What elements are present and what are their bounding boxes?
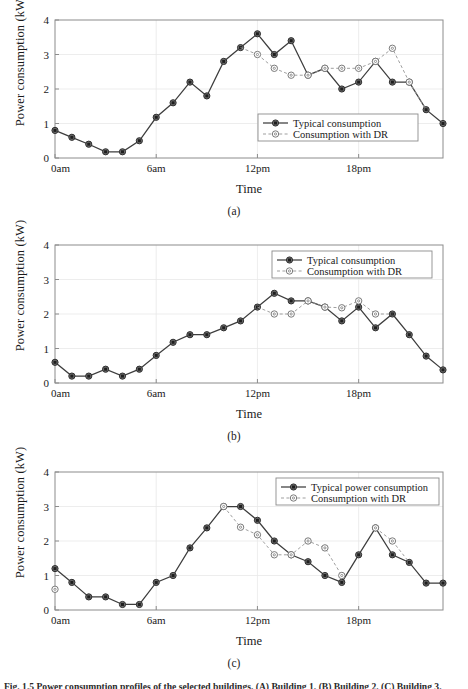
- subplot-caption-b: (b): [0, 430, 468, 442]
- svg-text:2: 2: [44, 308, 50, 320]
- svg-text:12pm: 12pm: [245, 387, 271, 399]
- svg-text:3: 3: [44, 501, 50, 513]
- chart-legend: Typical power consumptionConsumption wit…: [276, 478, 439, 505]
- svg-text:1: 1: [44, 118, 50, 130]
- legend-label-dr: Consumption with DR: [307, 266, 402, 277]
- chart-svg-c: 012340am6am12pm18pmTypical power consump…: [0, 452, 468, 642]
- y-axis-label-a: Power consumption (kW): [13, 0, 28, 151]
- legend-label-typical: Typical consumption: [293, 118, 382, 129]
- svg-text:6am: 6am: [147, 162, 166, 174]
- chart-svg-b: 012340am6am12pm18pmTypical consumptionCo…: [0, 225, 468, 415]
- svg-text:6am: 6am: [147, 387, 166, 399]
- svg-text:2: 2: [44, 535, 50, 547]
- plot-area-a: 012340am6am12pm18pmTypical consumptionCo…: [0, 0, 468, 190]
- svg-text:0: 0: [44, 604, 50, 616]
- svg-text:0am: 0am: [51, 387, 70, 399]
- legend-label-typical: Typical consumption: [307, 255, 396, 266]
- svg-text:1: 1: [44, 343, 50, 355]
- svg-text:18pm: 18pm: [346, 614, 372, 626]
- subplot-caption-a: (a): [0, 205, 468, 217]
- figure-caption: Fig. 1.5 Power consumption profiles of t…: [4, 681, 466, 689]
- y-axis-label-b: Power consumption (kW): [13, 196, 28, 376]
- x-axis-label-b: Time: [55, 407, 443, 422]
- svg-text:12pm: 12pm: [245, 614, 271, 626]
- svg-text:18pm: 18pm: [346, 387, 372, 399]
- svg-text:3: 3: [44, 274, 50, 286]
- chart-panel-a: 012340am6am12pm18pmTypical consumptionCo…: [0, 0, 468, 225]
- svg-text:0am: 0am: [51, 162, 70, 174]
- svg-text:2: 2: [44, 83, 50, 95]
- y-axis-label-c: Power consumption (kW): [13, 423, 28, 603]
- legend-label-typical: Typical power consumption: [311, 482, 429, 493]
- svg-text:0: 0: [44, 377, 50, 389]
- chart-panel-b: 012340am6am12pm18pmTypical consumptionCo…: [0, 225, 468, 450]
- svg-text:0: 0: [44, 152, 50, 164]
- chart-legend: Typical consumptionConsumption with DR: [258, 114, 418, 141]
- svg-text:1: 1: [44, 570, 50, 582]
- legend-label-dr: Consumption with DR: [293, 129, 388, 140]
- svg-text:0am: 0am: [51, 614, 70, 626]
- chart-panel-c: 012340am6am12pm18pmTypical power consump…: [0, 452, 468, 677]
- x-axis-label-c: Time: [55, 634, 443, 649]
- subplot-caption-c: (c): [0, 657, 468, 669]
- x-axis-label-a: Time: [55, 182, 443, 197]
- legend-label-dr: Consumption with DR: [311, 493, 406, 504]
- svg-text:3: 3: [44, 49, 50, 61]
- svg-text:4: 4: [44, 239, 50, 251]
- chart-legend: Typical consumptionConsumption with DR: [272, 251, 432, 278]
- svg-text:12pm: 12pm: [245, 162, 271, 174]
- svg-text:4: 4: [44, 14, 50, 26]
- figure-container: 012340am6am12pm18pmTypical consumptionCo…: [0, 0, 468, 689]
- svg-text:6am: 6am: [147, 614, 166, 626]
- svg-text:4: 4: [44, 466, 50, 478]
- chart-svg-a: 012340am6am12pm18pmTypical consumptionCo…: [0, 0, 468, 190]
- plot-area-c: 012340am6am12pm18pmTypical power consump…: [0, 452, 468, 642]
- svg-text:18pm: 18pm: [346, 162, 372, 174]
- plot-area-b: 012340am6am12pm18pmTypical consumptionCo…: [0, 225, 468, 415]
